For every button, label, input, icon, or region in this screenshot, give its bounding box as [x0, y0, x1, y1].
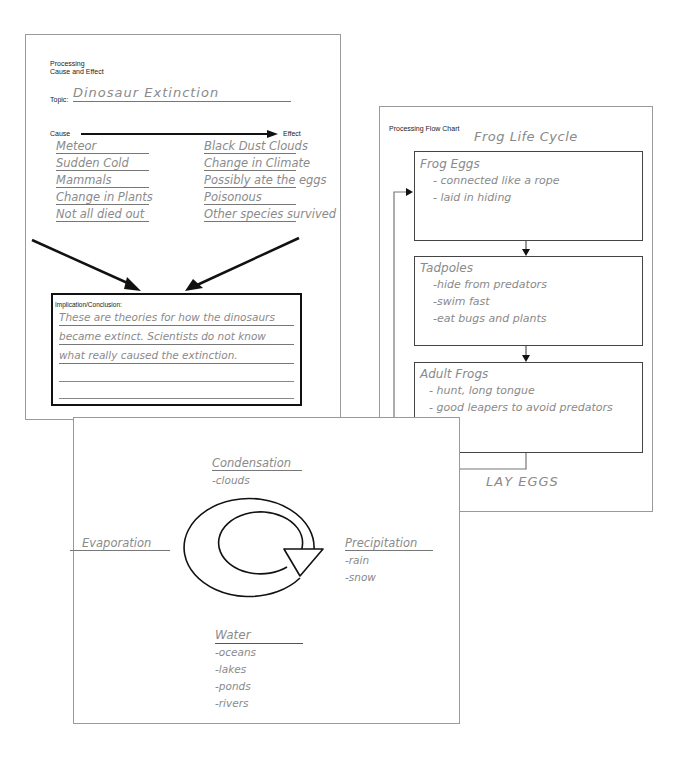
- precipitation-item: -rain: [345, 554, 369, 567]
- blank-line: [59, 381, 294, 382]
- water-cycle-worksheet: Condensation -clouds Evaporation Precipi…: [73, 417, 460, 724]
- flow-box-title: Tadpoles: [420, 261, 473, 276]
- conclusion-label: Implication/Conclusion:: [55, 300, 122, 309]
- flow-box-item: - hunt, long tongue: [429, 384, 535, 398]
- flow-box-item: - connected like a rope: [433, 174, 560, 188]
- conclusion-box: Implication/Conclusion: These are theori…: [51, 293, 302, 406]
- precipitation-title: Precipitation: [345, 536, 433, 551]
- water-item: -rivers: [215, 697, 248, 710]
- flow-box-item: - laid in hiding: [433, 191, 511, 205]
- flow-box-title: Frog Eggs: [420, 157, 480, 172]
- flow-box-item: -eat bugs and plants: [433, 312, 546, 326]
- conclusion-line: These are theories for how the dinosaurs: [59, 310, 294, 326]
- flow-box-frog-eggs: Frog Eggs - connected like a rope - laid…: [414, 151, 643, 241]
- conclusion-line: what really caused the extinction.: [59, 348, 294, 364]
- water-item: -ponds: [215, 680, 251, 693]
- water-title: Water: [215, 628, 303, 644]
- water-cycle-arrow-icon: [74, 418, 461, 725]
- lay-eggs-label: LAY EGGS: [486, 474, 559, 490]
- precipitation-item: -snow: [345, 571, 376, 584]
- blank-line: [59, 398, 294, 399]
- converging-arrows-icon: [26, 35, 342, 335]
- flow-box-tadpoles: Tadpoles -hide from predators -swim fast…: [414, 256, 643, 346]
- water-item: -oceans: [215, 646, 256, 659]
- cause-effect-worksheet: Processing Cause and Effect Topic: Dinos…: [25, 34, 341, 420]
- flow-box-item: -hide from predators: [433, 278, 547, 292]
- flow-box-title: Adult Frogs: [420, 367, 488, 382]
- flow-box-item: - good leapers to avoid predators: [429, 401, 613, 415]
- water-item: -lakes: [215, 663, 246, 676]
- flow-box-item: -swim fast: [433, 295, 490, 309]
- conclusion-line: became extinct. Scientists do not know: [59, 329, 294, 345]
